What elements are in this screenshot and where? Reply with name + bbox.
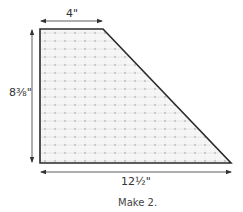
left-dimension-label: 8⅜" <box>9 87 32 98</box>
fabric-piece <box>40 29 231 163</box>
bottom-dimension-label: 12½" <box>121 176 151 187</box>
make-quantity-caption: Make 2. <box>118 198 157 208</box>
top-dimension-label: 4" <box>66 8 78 19</box>
